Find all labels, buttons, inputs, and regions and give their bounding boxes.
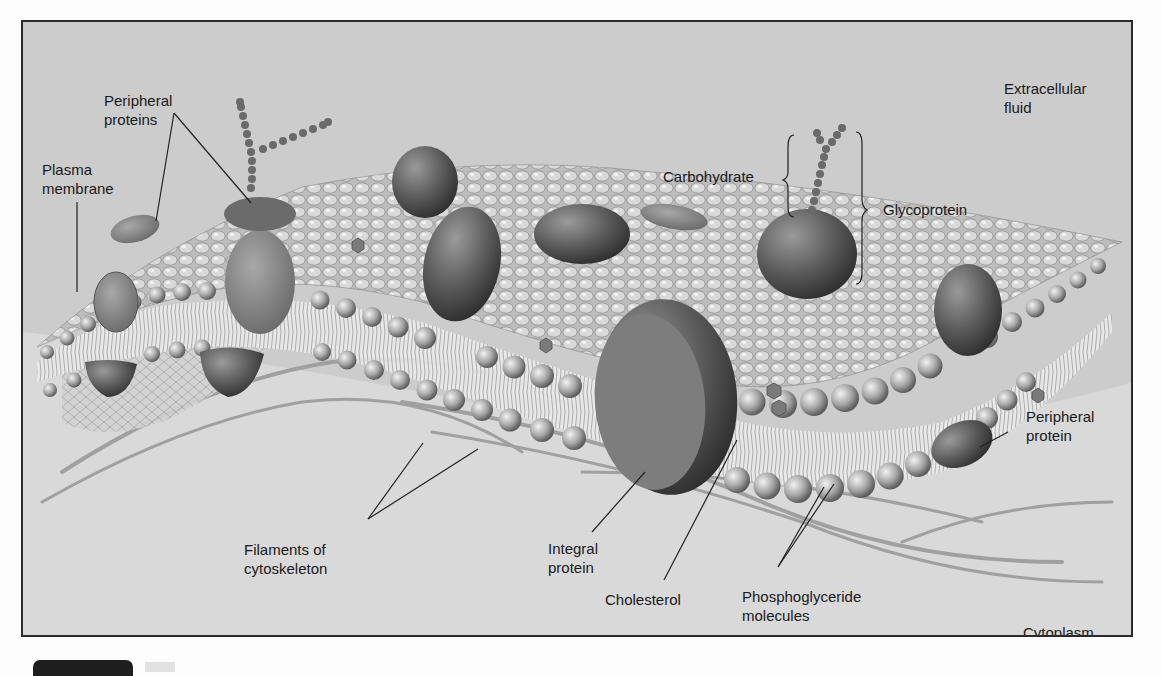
figure-number-tab: [33, 660, 133, 676]
label-plasma-membrane: Plasma membrane: [42, 160, 114, 198]
label-phosphoglyceride-molecules: Phosphoglyceride molecules: [742, 587, 861, 625]
label-extracellular-fluid: Extracellular fluid: [1004, 79, 1087, 117]
label-peripheral-protein: Peripheral protein: [1026, 407, 1094, 445]
label-glycoprotein: Glycoprotein: [883, 200, 967, 219]
figure-caption-stub: [145, 662, 175, 672]
label-cytoplasm: Cytoplasm: [1023, 623, 1094, 637]
label-carbohydrate: Carbohydrate: [663, 167, 754, 186]
label-filaments-of-cytoskeleton: Filaments of cytoskeleton: [244, 540, 327, 578]
diagram-frame: Peripheral proteins Plasma membrane Extr…: [21, 20, 1133, 637]
label-cholesterol: Cholesterol: [605, 590, 681, 609]
label-peripheral-proteins: Peripheral proteins: [104, 91, 172, 129]
label-integral-protein: Integral protein: [548, 539, 598, 577]
